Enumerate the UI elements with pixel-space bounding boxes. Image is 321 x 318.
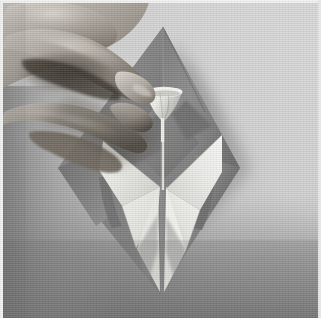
origami-photograph xyxy=(0,0,321,318)
print-border-left xyxy=(0,0,3,318)
vignette-bottom xyxy=(0,240,321,318)
print-border-top xyxy=(0,0,321,3)
vignette-left xyxy=(0,0,26,318)
photo-canvas xyxy=(0,0,321,318)
cone-stem xyxy=(161,118,164,142)
